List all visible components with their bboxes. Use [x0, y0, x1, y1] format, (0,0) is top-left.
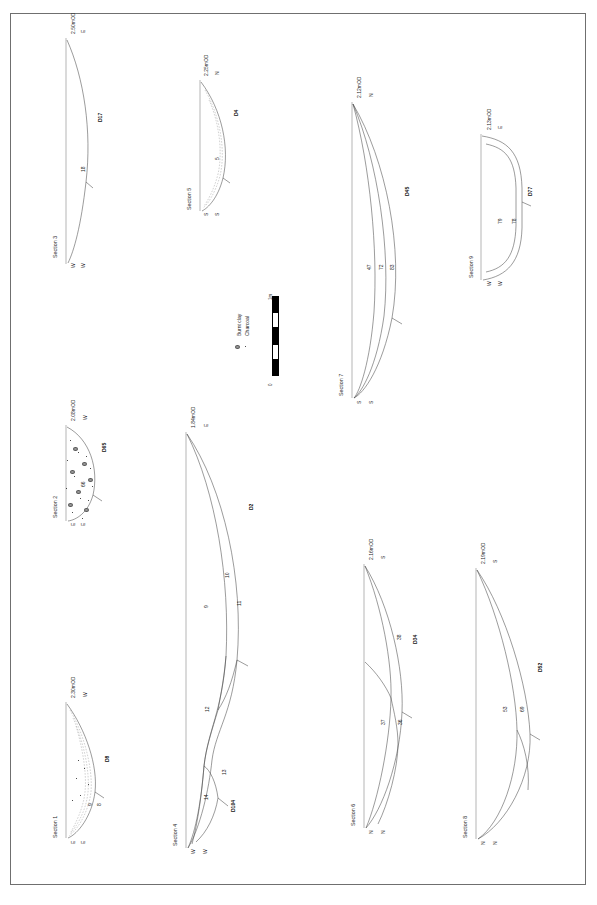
section-7-feature-d45: D45 [404, 187, 410, 196]
section-9-feature-d77: D77 [527, 187, 533, 196]
section-8-compass-left-2: N [492, 841, 498, 845]
section-3-od-level: 2.50mOD [70, 13, 76, 34]
section-9-title: Section 9 [468, 256, 474, 278]
section-6-compass-left-2: N [380, 830, 386, 834]
section-4-feature-d104: D104 [230, 800, 236, 812]
section-6-title: Section 6 [350, 804, 356, 826]
section-7-context-83: 83 [389, 264, 395, 270]
section-5-context-5: 5 [214, 157, 220, 160]
legend-label-burnt-clay: Burnt clay [236, 314, 242, 336]
scale-min-label: 0 [268, 383, 273, 386]
section-6-od-level: 2.16mOD [368, 539, 374, 560]
section-6-context-37: 37 [380, 719, 386, 725]
section-6-context-38: 38 [396, 634, 402, 640]
section-3-feature-d17: D17 [97, 113, 103, 122]
section-7-compass-left: S [356, 401, 362, 404]
section-9-compass-left: W [486, 281, 492, 286]
section-5-compass-left: S [203, 213, 209, 216]
section-2-compass-left: E [70, 523, 76, 526]
section-4-context-12: 12 [204, 706, 210, 712]
section-2-title: Section 2 [52, 496, 58, 518]
section-5-od-level: 2.25mOD [203, 55, 209, 76]
section-4-context-10: 10 [224, 572, 230, 578]
section-6-compass-left: N [368, 830, 374, 834]
section-3-compass-right: E [80, 30, 86, 33]
section-1-compass-left: E [70, 841, 76, 844]
section-5-title: Section 5 [186, 188, 192, 210]
section-7-od-level: 2.12mOD [356, 77, 362, 98]
figure-page: 2.50mOD E W W 18 D17 Section 3 2.25mOD N… [0, 0, 597, 905]
section-4-context-13: 13 [221, 769, 227, 775]
section-7-context-47: 47 [366, 264, 372, 270]
section-4-context-11: 11 [236, 601, 242, 606]
section-8-feature-d52: D52 [537, 663, 543, 672]
section-2-od-level: 2.08mOD [70, 400, 76, 421]
section-4-context-14: 14 [203, 794, 209, 800]
section-3-compass-left: W [70, 263, 76, 268]
section-9-od-level: 2.13mOD [486, 109, 492, 130]
section-8-compass-left: N [480, 841, 486, 845]
section-4-feature-d2: D2 [248, 504, 254, 510]
section-4-compass-left-2: W [202, 849, 208, 854]
section-8-compass-right: S [492, 560, 498, 563]
section-1-context-9: 9 [87, 803, 93, 806]
section-7-compass-right: N [368, 93, 374, 97]
section-2-feature-d65: D65 [101, 443, 107, 452]
section-1-compass-left-2: E [80, 841, 86, 844]
section-9-compass-left-2: W [497, 281, 503, 286]
section-4-compass-left: W [190, 849, 196, 854]
section-6-compass-right: S [380, 556, 386, 559]
section-1-od-level: 2.30mOD [70, 677, 76, 698]
section-7-compass-left-2: S [368, 401, 374, 404]
section-9-context-78: 78 [511, 218, 517, 224]
section-7-context-72: 72 [378, 264, 384, 270]
section-7-title: Section 7 [338, 374, 344, 396]
section-5-feature-d4: D4 [233, 110, 239, 116]
section-8-context-69: 69 [519, 706, 525, 712]
section-8-context-53: 53 [502, 706, 508, 712]
section-5-compass-right: N [214, 71, 220, 75]
section-4-title: Section 4 [172, 824, 178, 846]
legend-label-charcoal: Charcoal [244, 316, 250, 336]
section-1-context-8: 8 [96, 803, 102, 806]
section-2-compass-left-2: E [80, 523, 86, 526]
section-1-feature-d8: D8 [104, 756, 110, 762]
section-9-context-79: 79 [497, 218, 503, 224]
section-4-od-level: 1.84mOD [190, 407, 196, 428]
section-4-context-9: 9 [203, 605, 209, 608]
section-8-od-level: 2.19mOD [480, 543, 486, 564]
section-6-context-36: 36 [397, 719, 403, 725]
section-4-compass-right: E [203, 424, 209, 427]
section-3-title: Section 3 [52, 236, 58, 258]
scale-max-label: 1m [268, 294, 273, 300]
section-9-compass-right: E [497, 126, 503, 129]
section-3-compass-left-2: W [80, 263, 86, 268]
section-6-feature-d34: D34 [412, 635, 418, 644]
section-5-compass-left-2: S [214, 213, 220, 216]
section-3-context-18: 18 [80, 166, 86, 172]
section-2-context-66: 66 [80, 481, 86, 487]
section-8-title: Section 8 [462, 816, 468, 838]
section-2-compass-right: W [82, 415, 88, 420]
section-1-title: Section 1 [52, 816, 58, 838]
section-1-compass-right: W [82, 692, 88, 697]
